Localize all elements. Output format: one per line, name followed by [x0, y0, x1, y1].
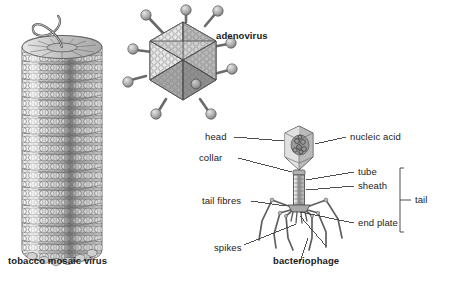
leader-head [234, 137, 284, 141]
caption-bacteriophage: bacteriophage [273, 256, 339, 266]
adenovirus-penton [191, 79, 201, 89]
adenovirus-illustration [123, 5, 237, 119]
leader-spikes-right [300, 216, 326, 246]
leader-tube [306, 172, 354, 180]
callout-label-tail-fibres: tail fibres [202, 196, 241, 206]
bacteriophage-end-plate [288, 205, 310, 212]
callout-label-tube: tube [358, 167, 377, 177]
caption-tobacco-mosaic-virus: tobacco mosaic virus [8, 256, 107, 266]
callout-label-nucleic-acid: nucleic acid [350, 132, 401, 142]
callout-label-collar: collar [199, 153, 222, 163]
tobacco-mosaic-virus-illustration [20, 16, 106, 266]
callout-label-head: head [205, 132, 227, 142]
callout-label-sheath: sheath [358, 181, 387, 191]
leader-end-plate [300, 212, 354, 223]
tail-bracket [400, 168, 411, 232]
callout-label-spikes: spikes [214, 243, 242, 253]
caption-adenovirus: adenovirus [216, 31, 268, 41]
adenovirus-capsid [150, 22, 216, 100]
leader-sheath [306, 186, 354, 190]
leader-collar [238, 158, 292, 172]
leader-nucleic-acid [315, 137, 346, 144]
callout-label-end-plate: end plate [358, 218, 398, 228]
bacteriophage-tube [298, 175, 301, 205]
bacteriophage-collar [293, 170, 305, 175]
callout-label-tail: tail [415, 195, 428, 205]
bacteriophage-nucleic-acid [291, 135, 309, 155]
tmv-subunit-texture [20, 34, 106, 264]
